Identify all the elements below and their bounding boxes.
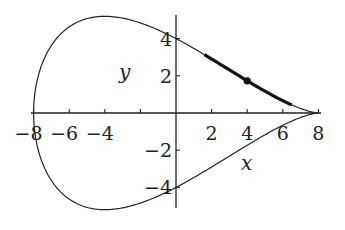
- x-tick-label: 8: [312, 122, 324, 144]
- x-axis-label: x: [241, 151, 252, 175]
- x-tick-label: 4: [241, 122, 253, 144]
- x-tick-label: 2: [206, 122, 218, 144]
- y-tick-label: −4: [144, 176, 172, 198]
- x-tick-label: −6: [50, 122, 78, 144]
- x-tick-label: −8: [15, 122, 43, 144]
- y-tick-label: 2: [160, 65, 172, 87]
- parametric-curve-chart: −8−6−42468 42−2−4 x y: [0, 0, 345, 230]
- y-tick-label: −2: [144, 139, 172, 161]
- y-axis-label: y: [118, 60, 131, 84]
- marked-point: [244, 77, 251, 84]
- x-tick-label: −4: [86, 122, 114, 144]
